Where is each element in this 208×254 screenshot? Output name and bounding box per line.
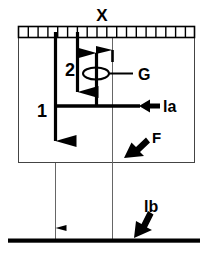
- label-top-scale: X: [96, 6, 108, 25]
- label-load-one: 1: [37, 101, 47, 121]
- scale-ruler: [19, 27, 195, 38]
- force-diagram-svg: X 1 2 G la F lb: [0, 0, 208, 254]
- label-distance-b: lb: [144, 198, 158, 215]
- ground-line: [8, 239, 200, 243]
- diagram-canvas: X 1 2 G la F lb: [0, 0, 208, 254]
- body-outline: [19, 27, 195, 163]
- label-force: F: [152, 129, 161, 146]
- label-pivot: G: [138, 66, 150, 83]
- distance-b-arrow: [134, 211, 154, 238]
- label-load-two: 2: [65, 60, 75, 80]
- label-distance-a: la: [163, 98, 176, 115]
